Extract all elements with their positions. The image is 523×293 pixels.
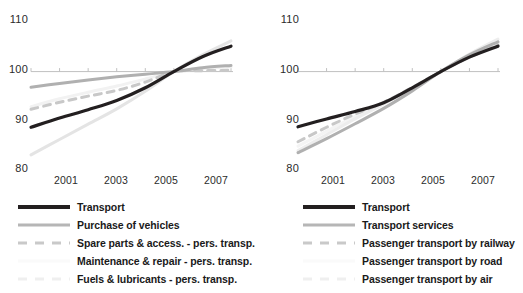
legend-left: Transport Purchase of vehicles Spare par… [0, 196, 262, 293]
legend-label-maintenance-repair: Maintenance & repair - pers. transp. [77, 255, 252, 267]
y-axis-tick-90: 90 [2, 113, 28, 125]
x-axis-tick-2005: 2005 [413, 174, 453, 186]
legend-item-transport-services[interactable]: Transport services [303, 216, 454, 233]
legend-label-spare-parts: Spare parts & access. - pers. transp. [77, 237, 255, 249]
legend-swatch-passenger-road [303, 255, 355, 267]
y-axis-tick-80: 80 [273, 162, 299, 174]
plot-area-left [0, 0, 262, 195]
y-axis-tick-90: 90 [273, 113, 299, 125]
legend-label-passenger-road: Passenger transport by road [362, 255, 502, 267]
chart-panel-left: 110 100 90 80 2001 2003 2005 2007 Transp… [0, 0, 262, 293]
y-axis-tick-80: 80 [2, 162, 28, 174]
y-axis-tick-100: 100 [273, 63, 299, 75]
line-chart-right [261, 0, 523, 195]
legend-swatch-maintenance-repair [18, 255, 70, 267]
legend-item-passenger-railway[interactable]: Passenger transport by railway [303, 234, 515, 251]
x-axis-tick-2007: 2007 [463, 174, 503, 186]
legend-swatch-fuels-lubricants [18, 273, 70, 285]
x-axis-tick-2003: 2003 [363, 174, 403, 186]
legend-item-passenger-air[interactable]: Passenger transport by air [303, 270, 492, 287]
legend-item-maintenance-repair[interactable]: Maintenance & repair - pers. transp. [18, 252, 252, 269]
legend-label-transport-services: Transport services [362, 219, 454, 231]
chart-figure: 110 100 90 80 2001 2003 2005 2007 Transp… [0, 0, 523, 293]
legend-item-passenger-road[interactable]: Passenger transport by road [303, 252, 502, 269]
legend-swatch-passenger-air [303, 273, 355, 285]
legend-item-fuels-lubricants[interactable]: Fuels & lubricants - pers. transp. [18, 270, 237, 287]
chart-panel-right: 110 100 90 80 2001 2003 2005 2007 Transp… [261, 0, 523, 293]
series-line [298, 45, 498, 141]
legend-item-purchase-of-vehicles[interactable]: Purchase of vehicles [18, 216, 179, 233]
x-axis-tick-2001: 2001 [313, 174, 353, 186]
plot-area-right [261, 0, 523, 195]
legend-right: Transport Transport services Passenger t… [261, 196, 523, 293]
legend-swatch-transport-services [303, 219, 355, 231]
legend-label-passenger-air: Passenger transport by air [362, 273, 492, 285]
legend-label-transport: Transport [362, 201, 410, 213]
y-axis-tick-110: 110 [273, 13, 299, 25]
x-axis-tick-2003: 2003 [96, 174, 136, 186]
legend-label-transport: Transport [77, 201, 125, 213]
legend-swatch-transport [303, 201, 355, 213]
legend-swatch-transport [18, 201, 70, 213]
x-axis-tick-2001: 2001 [46, 174, 86, 186]
legend-swatch-passenger-railway [303, 237, 355, 249]
legend-item-spare-parts[interactable]: Spare parts & access. - pers. transp. [18, 234, 255, 251]
y-axis-tick-110: 110 [2, 13, 28, 25]
legend-swatch-purchase-of-vehicles [18, 219, 70, 231]
y-axis-tick-100: 100 [2, 63, 28, 75]
legend-label-purchase-of-vehicles: Purchase of vehicles [77, 219, 179, 231]
legend-swatch-spare-parts [18, 237, 70, 249]
legend-label-fuels-lubricants: Fuels & lubricants - pers. transp. [77, 273, 237, 285]
line-chart-left [0, 0, 262, 195]
series-line [298, 46, 498, 127]
x-axis-tick-2007: 2007 [196, 174, 236, 186]
legend-item-transport[interactable]: Transport [303, 198, 410, 215]
x-axis-tick-2005: 2005 [146, 174, 186, 186]
legend-label-passenger-railway: Passenger transport by railway [362, 237, 515, 249]
legend-item-transport[interactable]: Transport [18, 198, 125, 215]
